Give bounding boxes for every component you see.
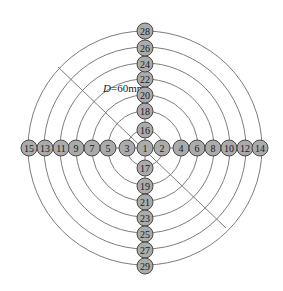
measurement-point-14: 14	[252, 140, 268, 156]
point-label: 14	[255, 143, 265, 154]
measurement-point-27: 27	[137, 242, 153, 258]
measurement-point-10: 10	[221, 140, 237, 156]
measurement-point-12: 12	[237, 140, 253, 156]
measurement-point-25: 25	[137, 226, 153, 242]
measurement-point-13: 13	[37, 140, 53, 156]
measurement-point-5: 5	[100, 140, 116, 156]
point-label: 16	[140, 125, 150, 136]
point-label: 18	[140, 106, 150, 117]
point-label: 22	[140, 74, 150, 85]
point-label: 5	[106, 143, 111, 154]
measurement-point-21: 21	[137, 194, 153, 210]
measurement-points: 1234567891011121314151617181920212223242…	[21, 23, 268, 274]
measurement-point-6: 6	[189, 140, 205, 156]
point-label: 2	[160, 143, 165, 154]
measurement-point-7: 7	[84, 140, 100, 156]
point-label: 4	[179, 143, 184, 154]
point-label: 9	[74, 143, 79, 154]
measurement-point-3: 3	[119, 140, 135, 156]
measurement-point-8: 8	[205, 140, 221, 156]
measurement-point-24: 24	[137, 56, 153, 72]
point-label: 19	[140, 181, 150, 192]
measurement-point-22: 22	[137, 71, 153, 87]
point-label: 10	[224, 143, 234, 154]
measurement-point-19: 19	[137, 178, 153, 194]
point-label: 8	[211, 143, 216, 154]
measurement-point-4: 4	[173, 140, 189, 156]
point-label: 25	[140, 229, 150, 240]
measurement-point-17: 17	[137, 160, 153, 176]
point-label: 23	[140, 213, 150, 224]
measurement-point-28: 28	[137, 23, 153, 39]
measurement-point-11: 11	[53, 140, 69, 156]
measurement-point-29: 29	[137, 258, 153, 274]
measurement-point-9: 9	[68, 140, 84, 156]
measurement-point-18: 18	[137, 103, 153, 119]
point-label: 13	[40, 143, 50, 154]
measurement-point-15: 15	[21, 140, 37, 156]
point-label: 28	[140, 26, 150, 37]
point-label: 17	[140, 163, 150, 174]
point-label: 15	[24, 143, 34, 154]
concentric-measurement-diagram: D=60mm 123456789101112131415161718192021…	[0, 0, 283, 291]
measurement-point-26: 26	[137, 40, 153, 56]
point-label: 11	[56, 143, 66, 154]
point-label: 24	[140, 59, 150, 70]
point-label: 7	[90, 143, 95, 154]
point-label: 26	[140, 43, 150, 54]
point-label: 20	[140, 90, 150, 101]
measurement-point-2: 2	[154, 140, 170, 156]
point-label: 12	[240, 143, 250, 154]
measurement-point-23: 23	[137, 210, 153, 226]
point-label: 3	[125, 143, 130, 154]
point-label: 1	[143, 143, 148, 154]
point-label: 29	[140, 261, 150, 272]
point-label: 6	[195, 143, 200, 154]
measurement-point-20: 20	[137, 87, 153, 103]
point-label: 27	[140, 245, 150, 256]
measurement-point-16: 16	[137, 122, 153, 138]
measurement-point-1: 1	[137, 140, 153, 156]
point-label: 21	[140, 197, 150, 208]
